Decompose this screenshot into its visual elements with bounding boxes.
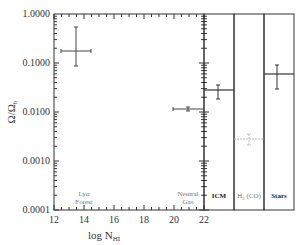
chart: 1.0000 0.1000 0.0100 0.0010 0.0001 12 14… [0, 0, 302, 245]
label-lya-forest-1: Lyα [78, 190, 89, 198]
label-neutral-gas-1: Neutral [178, 190, 199, 198]
x-tick-label: 22 [199, 214, 209, 225]
data-point-lya-forest [61, 27, 91, 66]
label-stars: Stars [271, 192, 287, 200]
data-point-stars [264, 65, 294, 89]
x-tick-label: 20 [169, 214, 179, 225]
panel-h2co [234, 14, 264, 210]
data-point-neutral-gas [173, 107, 204, 111]
x-tick-label: 14 [79, 214, 89, 225]
label-lya-forest-2: Forest [75, 198, 93, 206]
x-axis-title: log NHI [88, 229, 121, 243]
y-tick-label: 0.0001 [23, 204, 51, 215]
y-tick-label: 1.0000 [23, 8, 51, 19]
x-tick-label: 16 [109, 214, 119, 225]
y-axis-ticks [54, 16, 209, 210]
y-axis-title: Ω/Ωb [5, 100, 19, 123]
label-h2co: H2 (CO) [237, 192, 261, 201]
y-tick-label: 0.1000 [23, 57, 51, 68]
label-icm: ICM [212, 192, 227, 200]
label-neutral-gas-2: Gas [183, 198, 194, 206]
data-point-icm [204, 85, 234, 99]
data-point-h2co [234, 134, 264, 145]
y-tick-label: 0.0010 [23, 155, 51, 166]
x-tick-label: 12 [49, 214, 59, 225]
panel-stars [264, 14, 294, 210]
y-tick-label: 0.0100 [23, 106, 51, 117]
x-tick-label: 18 [139, 214, 149, 225]
